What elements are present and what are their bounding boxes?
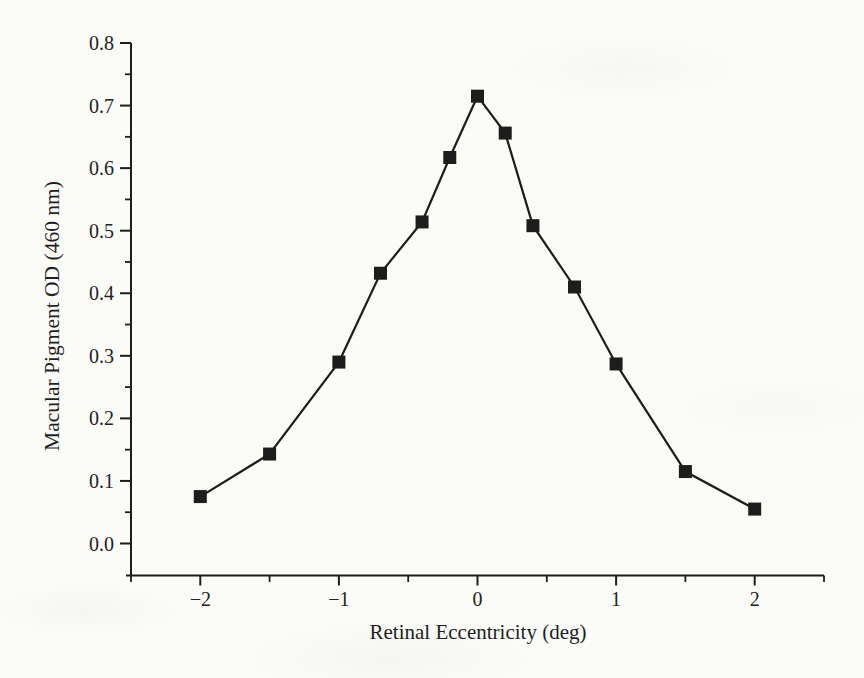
y-tick-label: 0.6	[89, 157, 114, 179]
data-point-marker	[748, 503, 761, 516]
y-tick-label: 0.7	[89, 95, 114, 117]
data-series-line	[200, 96, 754, 509]
y-tick-label: 0.2	[89, 407, 114, 429]
y-tick-label: 0.1	[89, 470, 114, 492]
x-tick-label: −1	[328, 588, 349, 610]
data-point-marker	[610, 357, 623, 370]
data-point-marker	[194, 490, 207, 503]
data-point-marker	[499, 127, 512, 140]
x-tick-label: 1	[611, 588, 621, 610]
x-axis-title: Retinal Eccentricity (deg)	[370, 620, 587, 645]
x-tick-label: −2	[190, 588, 211, 610]
y-tick-label: 0.0	[89, 533, 114, 555]
data-point-marker	[443, 151, 456, 164]
data-point-marker	[471, 90, 484, 103]
data-point-marker	[263, 448, 276, 461]
x-tick-label: 0	[473, 588, 483, 610]
y-tick-label: 0.3	[89, 345, 114, 367]
data-point-marker	[526, 219, 539, 232]
scanned-page: −2−10120.00.10.20.30.40.50.60.70.8 Macul…	[0, 0, 864, 678]
data-point-marker	[416, 215, 429, 228]
x-tick-label: 2	[750, 588, 760, 610]
data-point-marker	[679, 465, 692, 478]
plot-area: −2−10120.00.10.20.30.40.50.60.70.8	[0, 0, 864, 678]
y-tick-label: 0.8	[89, 32, 114, 54]
y-axis-title: Macular Pigment OD (460 nm)	[40, 181, 65, 451]
data-point-marker	[568, 280, 581, 293]
data-point-marker	[374, 267, 387, 280]
data-point-marker	[332, 356, 345, 369]
y-tick-label: 0.5	[89, 220, 114, 242]
y-tick-label: 0.4	[89, 282, 114, 304]
